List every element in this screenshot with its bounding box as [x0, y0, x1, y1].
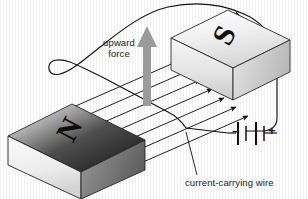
north-magnet: N [8, 104, 145, 199]
diagram-canvas: S N upward force [0, 0, 308, 199]
battery-negative-terminal-label: − [232, 125, 240, 138]
wire-label-leader [186, 132, 197, 175]
south-magnet: S [171, 10, 290, 100]
battery-positive-terminal-label: + [268, 124, 276, 137]
upward-force-line-1: upward [96, 38, 142, 49]
upward-force-line-2: force [96, 49, 142, 60]
diagram-svg: S N [0, 0, 308, 199]
upward-force-label: upward force [96, 38, 142, 59]
current-carrying-wire-label: current-carrying wire [185, 178, 274, 189]
